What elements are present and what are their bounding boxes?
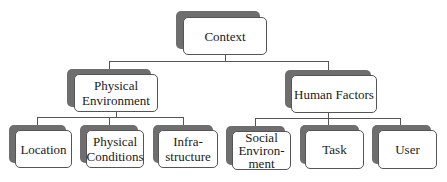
- node-label-line: Infra-: [173, 134, 203, 149]
- node-label-line: structure: [165, 149, 210, 164]
- node-box: Physical Environment: [74, 74, 158, 112]
- connector-physical-children-bar: [37, 117, 184, 118]
- node-label-line: Physical: [93, 134, 137, 149]
- node-label: Human Factors: [294, 87, 374, 102]
- node-label: Location: [20, 142, 66, 157]
- node-box: Human Factors: [291, 75, 377, 113]
- node-box: Physical Conditions: [86, 130, 144, 168]
- node-label: Task: [322, 142, 346, 157]
- node-box: Location: [15, 130, 72, 168]
- node-box: Social Environ- ment: [232, 131, 291, 170]
- connector-social-up: [255, 118, 256, 126]
- node-label-line: ment: [249, 157, 275, 170]
- node-label-line: Physical: [94, 78, 138, 93]
- connector-level1-bar: [109, 61, 329, 62]
- connector-root-down: [225, 54, 226, 61]
- node-box: User: [378, 130, 437, 169]
- node-label: User: [395, 142, 420, 157]
- node-label-line: Conditions: [86, 149, 143, 164]
- node-box: Infra- structure: [158, 130, 218, 168]
- node-box: Task: [305, 130, 364, 169]
- node-label-line: Environment: [82, 93, 150, 108]
- node-box: Context: [183, 17, 267, 55]
- node-label: Context: [204, 29, 245, 44]
